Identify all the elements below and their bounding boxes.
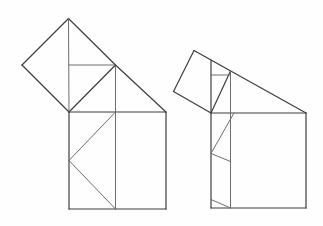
chevron-lower-arm bbox=[69, 161, 116, 210]
diamond-side-top-left bbox=[22, 19, 69, 66]
pythagorean-dissection-diagram bbox=[0, 0, 323, 226]
tilted-square-side-bottom-left bbox=[174, 92, 212, 114]
diamond-side-bottom-left bbox=[22, 65, 69, 112]
tilted-square-side-top-left bbox=[174, 51, 195, 92]
left-dissection-figure bbox=[22, 19, 166, 210]
scanned-diagram-page bbox=[0, 0, 323, 226]
middle-inner-diagonal bbox=[211, 154, 231, 162]
right-dissection-figure bbox=[174, 51, 307, 209]
diamond-side-bottom-right bbox=[69, 65, 116, 112]
diamond-side-top-right bbox=[69, 19, 116, 66]
chevron-upper-arm bbox=[69, 112, 116, 161]
diagonal-to-top-right-corner bbox=[116, 65, 167, 112]
tilted-square-side-right bbox=[211, 71, 231, 113]
lower-inner-diagonal bbox=[211, 200, 231, 209]
